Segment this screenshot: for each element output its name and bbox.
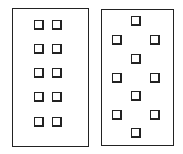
square-right-7 — [112, 110, 122, 120]
square-left-0 — [34, 20, 44, 30]
panel-left — [12, 8, 89, 147]
square-right-0 — [131, 16, 141, 26]
square-right-6 — [131, 91, 141, 101]
square-left-2 — [34, 44, 44, 54]
square-right-3 — [131, 54, 141, 64]
square-left-4 — [34, 68, 44, 78]
square-left-8 — [34, 117, 44, 127]
square-right-2 — [150, 35, 160, 45]
square-left-3 — [52, 44, 62, 54]
square-left-5 — [52, 68, 62, 78]
square-right-4 — [112, 73, 122, 83]
square-left-6 — [34, 92, 44, 102]
square-left-1 — [52, 20, 62, 30]
square-left-7 — [52, 92, 62, 102]
square-right-9 — [131, 128, 141, 138]
square-right-1 — [112, 35, 122, 45]
square-right-8 — [150, 110, 160, 120]
square-left-9 — [52, 117, 62, 127]
square-right-5 — [150, 73, 160, 83]
